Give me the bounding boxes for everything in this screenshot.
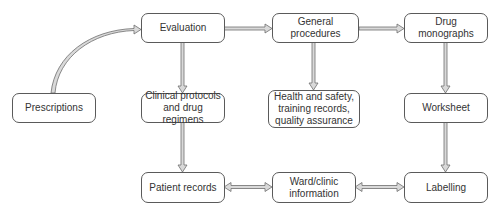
arrow-general-to-drug [359, 24, 404, 33]
node-label: Clinical protocols and drug regimens [142, 90, 224, 126]
arrow-prescriptions-to-evaluation [51, 25, 141, 93]
node-patient-records: Patient records [141, 172, 225, 203]
node-general-procedures: General procedures [272, 13, 359, 43]
arrow-evaluation-to-clinical [178, 42, 187, 93]
arrow-drug-to-worksheet [441, 42, 450, 93]
node-worksheet: Worksheet [404, 93, 488, 123]
node-label: Labelling [426, 182, 466, 194]
node-clinical-protocols: Clinical protocols and drug regimens [141, 93, 225, 123]
arrow-general-to-health [309, 42, 318, 90]
node-label: Patient records [149, 182, 216, 194]
node-drug-monographs: Drug monographs [404, 13, 488, 43]
node-label: General procedures [286, 16, 346, 40]
node-label: Health and safety, training records, qua… [270, 91, 358, 127]
node-label: Worksheet [422, 102, 470, 114]
node-health-safety: Health and safety, training records, qua… [268, 90, 360, 128]
node-label: Drug monographs [416, 16, 476, 40]
arrow-clinical-to-patient [178, 122, 187, 172]
node-labelling: Labelling [404, 172, 488, 203]
arrow-ward-labelling-bidirectional [355, 183, 404, 192]
node-label: Evaluation [160, 22, 207, 34]
node-ward-clinic: Ward/clinic information [272, 172, 356, 203]
arrow-worksheet-to-labelling [441, 122, 450, 172]
arrow-patient-ward-bidirectional [224, 183, 272, 192]
node-prescriptions: Prescriptions [12, 93, 96, 123]
node-evaluation: Evaluation [141, 13, 225, 43]
node-label: Prescriptions [25, 102, 83, 114]
arrow-evaluation-to-general [224, 24, 272, 33]
node-label: Ward/clinic information [284, 176, 344, 200]
